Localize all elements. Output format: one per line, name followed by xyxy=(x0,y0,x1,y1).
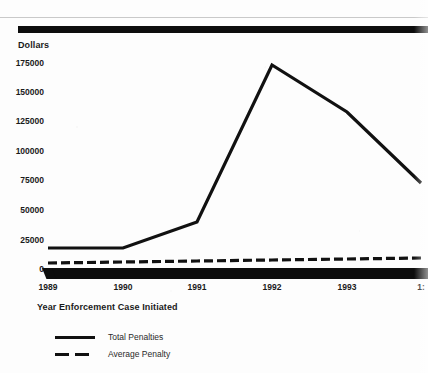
x-tick-label: 1990 xyxy=(114,282,133,292)
legend-item-average-penalty: Average Penalty xyxy=(55,345,170,362)
x-tick-label: 1989 xyxy=(39,282,58,292)
chart-svg xyxy=(0,0,428,373)
plot-area xyxy=(0,0,428,373)
legend-dashed-line-icon xyxy=(55,349,95,359)
x-tick-label: 1992 xyxy=(263,282,282,292)
x-tick-label-clipped: 1: xyxy=(417,282,425,292)
legend-item-label: Total Penalties xyxy=(108,332,163,342)
chart-page: Dollars 175000 150000 125000 100000 7500… xyxy=(0,0,428,373)
legend-item-total-penalties: Total Penalties xyxy=(55,328,170,345)
series-line-average-penalty xyxy=(48,258,421,263)
x-axis-scan-artifact-bar xyxy=(48,268,428,279)
x-tick-label: 1991 xyxy=(188,282,207,292)
chart-legend: Total Penalties Average Penalty xyxy=(55,328,170,362)
series-line-total-penalties xyxy=(48,65,421,248)
x-axis-title: Year Enforcement Case Initiated xyxy=(37,302,178,312)
legend-solid-line-icon xyxy=(55,332,95,342)
x-tick-label: 1993 xyxy=(338,282,357,292)
legend-item-label: Average Penalty xyxy=(108,349,170,359)
